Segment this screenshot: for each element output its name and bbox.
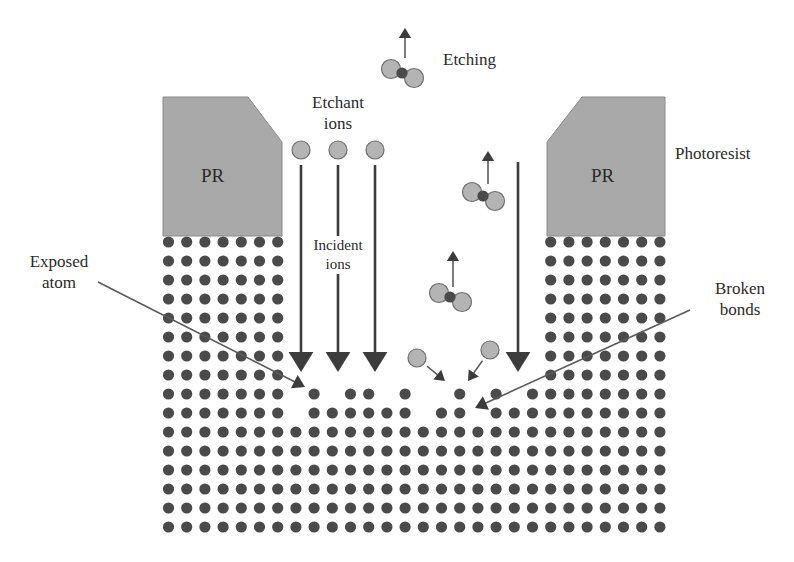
substrate-atom-icon (345, 483, 356, 494)
substrate-atom-icon (363, 426, 374, 437)
substrate-atom-icon (181, 483, 192, 494)
substrate-atom-icon (509, 426, 520, 437)
substrate-atom-icon (163, 426, 174, 437)
substrate-atom-icon (254, 350, 265, 361)
substrate-atom-icon (400, 483, 411, 494)
substrate-atom-icon (218, 369, 229, 380)
substrate-atom-icon (327, 483, 338, 494)
substrate-atom-icon (290, 521, 301, 532)
substrate-atom-icon (600, 236, 611, 247)
substrate-atom-icon (563, 255, 574, 266)
substrate-atom-icon (199, 350, 210, 361)
substrate-atom-icon (582, 255, 593, 266)
arrow-up-icon (447, 251, 459, 261)
substrate-atom-icon (563, 312, 574, 323)
substrate-atom-icon (218, 388, 229, 399)
substrate-atom-icon (309, 502, 320, 513)
substrate-atom-icon (218, 483, 229, 494)
substrate-atom-icon (272, 426, 283, 437)
substrate-atom-icon (363, 483, 374, 494)
substrate-atom-icon (272, 464, 283, 475)
substrate-atom-icon (618, 521, 629, 532)
substrate-atom-icon (509, 464, 520, 475)
substrate-atom-icon (636, 407, 647, 418)
incident-line-2: ions (303, 255, 373, 274)
substrate-atom-icon (163, 521, 174, 532)
substrate-atom-icon (199, 483, 210, 494)
substrate-atom-icon (400, 407, 411, 418)
substrate-atom-icon (636, 274, 647, 285)
substrate-atom-icon (381, 426, 392, 437)
substrate-atom-icon (254, 445, 265, 456)
substrate-atom-icon (254, 236, 265, 247)
substrate-atom-icon (272, 331, 283, 342)
substrate-atom-icon (582, 293, 593, 304)
substrate-atom-icon (199, 521, 210, 532)
substrate-lattice (163, 236, 666, 532)
substrate-atom-icon (381, 407, 392, 418)
photoresist-text: Photoresist (675, 144, 751, 163)
substrate-atom-icon (272, 312, 283, 323)
substrate-atom-icon (199, 426, 210, 437)
substrate-atom-icon (236, 407, 247, 418)
broken-line-2: bonds (705, 299, 775, 320)
etchant-ion-icon (366, 141, 384, 159)
arrow-down-icon (326, 352, 351, 372)
substrate-atom-icon (418, 464, 429, 475)
substrate-atom-icon (309, 426, 320, 437)
substrate-atom-icon (309, 388, 320, 399)
substrate-atom-icon (163, 369, 174, 380)
substrate-atom-icon (218, 255, 229, 266)
substrate-atom-icon (272, 255, 283, 266)
substrate-atom-icon (418, 521, 429, 532)
substrate-atom-icon (563, 350, 574, 361)
substrate-atom-icon (491, 426, 502, 437)
substrate-atom-icon (254, 331, 265, 342)
substrate-atom-icon (600, 255, 611, 266)
substrate-atom-icon (563, 293, 574, 304)
substrate-atom-icon (600, 331, 611, 342)
substrate-atom-icon (272, 293, 283, 304)
substrate-atom-icon (527, 426, 538, 437)
substrate-atom-icon (545, 521, 556, 532)
substrate-atom-icon (618, 293, 629, 304)
substrate-atom-icon (199, 502, 210, 513)
substrate-atom-icon (582, 331, 593, 342)
substrate-atom-icon (181, 502, 192, 513)
substrate-atom-icon (563, 426, 574, 437)
substrate-atom-icon (290, 445, 301, 456)
substrate-atom-icon (236, 274, 247, 285)
substrate-atom-icon (545, 274, 556, 285)
substrate-atom-icon (163, 388, 174, 399)
substrate-atom-icon (218, 445, 229, 456)
substrate-atom-icon (254, 521, 265, 532)
substrate-atom-icon (418, 445, 429, 456)
substrate-atom-icon (436, 445, 447, 456)
substrate-atom-icon (582, 426, 593, 437)
substrate-atom-icon (199, 464, 210, 475)
substrate-atom-icon (163, 445, 174, 456)
substrate-atom-icon (254, 388, 265, 399)
substrate-atom-icon (582, 483, 593, 494)
substrate-atom-icon (618, 464, 629, 475)
substrate-atom-icon (290, 464, 301, 475)
substrate-atom-icon (509, 445, 520, 456)
substrate-atom-icon (345, 502, 356, 513)
substrate-atom-icon (618, 445, 629, 456)
substrate-atom-icon (254, 255, 265, 266)
substrate-atom-icon (472, 521, 483, 532)
substrate-atom-icon (418, 426, 429, 437)
substrate-atom-icon (654, 445, 665, 456)
substrate-atom-icon (563, 502, 574, 513)
substrate-atom-icon (491, 483, 502, 494)
substrate-atom-icon (527, 388, 538, 399)
substrate-atom-icon (509, 521, 520, 532)
substrate-atom-icon (181, 426, 192, 437)
substrate-atom-icon (545, 445, 556, 456)
diagram-graphics (0, 0, 794, 562)
substrate-atom-icon (163, 236, 174, 247)
substrate-atom-icon (618, 369, 629, 380)
substrate-atom-icon (618, 502, 629, 513)
substrate-atom-icon (345, 388, 356, 399)
substrate-atom-icon (218, 312, 229, 323)
